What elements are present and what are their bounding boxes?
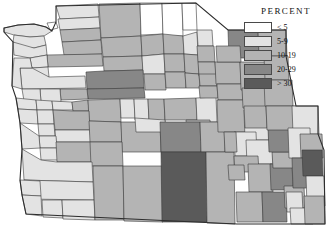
legend-entry: 20-29 [244,63,326,75]
county-region [47,54,103,67]
county-region [182,3,197,30]
legend-swatch [244,22,272,33]
legend-label: 5-9 [277,37,288,46]
county-region [140,3,163,35]
county-region [142,54,165,74]
county-region [160,122,201,152]
county-region [101,36,142,57]
county-region [197,46,215,62]
legend-entry: < 5 [244,21,326,33]
county-region [183,32,198,55]
county-region [89,121,122,142]
county-region [162,3,183,36]
legend-entry: 10-19 [244,49,326,61]
county-region [40,89,61,102]
county-region [72,100,89,111]
legend-swatch [244,64,272,75]
county-region [199,86,218,98]
county-region [199,74,217,86]
county-region [55,130,91,142]
county-region [120,99,135,118]
county-region [224,132,237,152]
county-region [164,54,185,72]
legend-entry: 5-9 [244,35,326,47]
legend-label: 20-29 [277,65,296,74]
county-region [20,68,86,89]
county-region [244,106,267,128]
county-region [56,142,92,162]
county-region [161,152,207,222]
legend-swatch [244,50,272,61]
county-region [184,54,199,74]
county-region [88,99,121,122]
county-region [163,34,184,54]
county-region [40,148,58,160]
county-region [39,136,57,148]
county-region [304,196,325,224]
county-region [16,98,37,110]
county-region [86,70,144,89]
county-region [215,62,241,84]
county-region [228,165,245,180]
legend-entry: > 30 [244,77,326,89]
legend-title: PERCENT [246,6,326,16]
county-region [37,110,54,124]
legend-swatch [244,78,272,89]
legend-label: 10-19 [277,51,296,60]
county-region [197,30,213,46]
county-region [242,88,267,108]
county-region [185,73,200,88]
county-region [20,123,40,149]
county-region [18,109,38,124]
legend-swatch [244,36,272,47]
map-figure: PERCENT < 55-910-1920-29> 30 [0,0,327,234]
county-region [206,152,235,224]
county-region [38,124,55,136]
county-region [196,97,217,122]
county-region [60,28,101,42]
county-region [103,56,143,71]
county-region [236,192,263,222]
county-region [141,34,164,56]
map-legend: PERCENT < 55-910-1920-29> 30 [244,6,326,91]
legend-entry-list: < 55-910-1920-29> 30 [244,21,326,89]
county-region [87,88,145,99]
county-region [52,101,73,110]
county-region [302,150,323,176]
county-region [93,166,124,220]
county-region [134,99,149,120]
county-region [53,110,90,130]
legend-label: < 5 [277,23,288,32]
legend-label: > 30 [277,79,292,88]
county-region [123,166,163,222]
county-region [217,84,243,100]
county-region [60,89,88,100]
county-region [164,98,197,120]
county-region [90,142,123,166]
county-region [148,99,165,122]
county-region [216,46,241,62]
county-region [144,74,166,90]
county-region [99,3,141,38]
county-region [20,180,41,196]
county-region [22,195,42,216]
county-region [262,192,287,222]
county-region [62,40,102,55]
county-region [248,164,273,192]
county-region [165,72,186,88]
county-region [36,100,53,110]
